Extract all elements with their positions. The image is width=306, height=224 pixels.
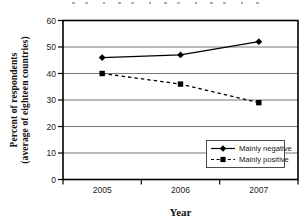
x-tick-label: 2006: [171, 185, 190, 195]
y-tick-label: 50: [47, 42, 57, 52]
y-tick-label: 40: [47, 69, 57, 79]
y-tick-label: 30: [47, 95, 57, 105]
legend-item-mainly-positive: Mainly positive: [210, 155, 282, 165]
y-tick-label: 10: [47, 148, 57, 158]
dashed-line-square-marker-icon: [210, 155, 236, 164]
y-tick-label: 60: [47, 16, 57, 26]
x-axis-title: Year: [63, 206, 298, 218]
y-tick-label: 0: [51, 175, 56, 185]
y-tick-label: 20: [47, 122, 57, 132]
legend-label: Mainly positive: [239, 155, 289, 164]
solid-line-diamond-marker-icon: [210, 144, 236, 153]
line-chart-figure: Percent of respondents (average of eight…: [0, 0, 306, 224]
line-chart-canvas: 0102030405060200520062007: [0, 0, 306, 224]
diamond-marker-icon: [255, 38, 262, 45]
x-tick-label: 2005: [93, 185, 112, 195]
square-marker-icon: [99, 71, 104, 76]
series-line-square: [102, 74, 259, 103]
x-tick-label: 2007: [249, 185, 268, 195]
diamond-marker-icon: [99, 54, 106, 61]
square-marker-icon: [178, 81, 183, 86]
legend-label: Mainly negative: [239, 144, 292, 153]
square-marker-icon: [256, 100, 261, 105]
diamond-marker-icon: [177, 52, 184, 59]
legend-item-mainly-negative: Mainly negative: [210, 143, 282, 153]
chart-legend: Mainly negative Mainly positive: [206, 140, 285, 168]
